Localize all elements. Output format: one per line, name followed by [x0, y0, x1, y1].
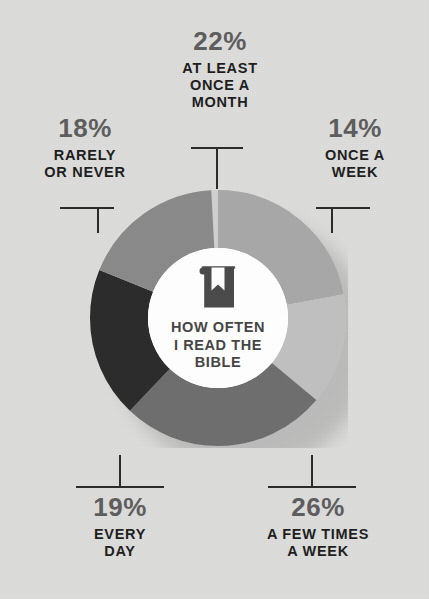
callout-line-1: AT LEAST: [150, 60, 290, 77]
leader-line-once-a-week: [316, 207, 370, 233]
callout-percent: 18%: [18, 115, 152, 141]
leader-stem: [216, 149, 218, 189]
callout-line-2: ONCE A: [150, 77, 290, 94]
center-title: HOW OFTEN I READ THE BIBLE: [171, 319, 265, 372]
leader-line-at-least-once-a-month: [191, 147, 243, 189]
callout-description: AT LEAST ONCE A MONTH: [150, 60, 290, 111]
callout-once-a-week: 14% ONCE A WEEK: [296, 115, 414, 181]
callout-rarely-or-never: 18% RARELY OR NEVER: [18, 115, 152, 181]
callout-line-2: DAY: [58, 543, 182, 560]
leader-line-rarely-or-never: [60, 207, 114, 233]
callout-line-1: ONCE A: [296, 147, 414, 164]
leader-stem: [97, 209, 99, 233]
center-title-line-1: HOW OFTEN: [171, 319, 265, 337]
callout-description: ONCE A WEEK: [296, 147, 414, 181]
callout-percent: 26%: [236, 494, 400, 520]
leader-stem: [119, 455, 121, 488]
callout-description: RARELY OR NEVER: [18, 147, 152, 181]
callout-line-1: EVERY: [58, 526, 182, 543]
callout-percent: 22%: [150, 28, 290, 54]
callout-a-few-times-a-week: 26% A FEW TIMES A WEEK: [236, 494, 400, 560]
callout-percent: 19%: [58, 494, 182, 520]
callout-line-2: OR NEVER: [18, 164, 152, 181]
callout-line-2: WEEK: [296, 164, 414, 181]
infographic-stage: HOW OFTEN I READ THE BIBLE 22% AT LEAST …: [0, 0, 429, 599]
leader-stem: [311, 455, 313, 488]
leader-stem: [331, 209, 333, 233]
book-icon: [198, 264, 238, 310]
leader-bar: [316, 207, 370, 209]
callout-line-1: A FEW TIMES: [236, 526, 400, 543]
callout-every-day: 19% EVERY DAY: [58, 494, 182, 560]
callout-at-least-once-a-month: 22% AT LEAST ONCE A MONTH: [150, 28, 290, 111]
leader-line-every-day: [76, 455, 164, 488]
center-title-line-3: BIBLE: [171, 354, 265, 372]
leader-line-a-few-times-a-week: [268, 455, 356, 488]
callout-line-2: A WEEK: [236, 543, 400, 560]
center-title-line-2: I READ THE: [171, 337, 265, 355]
callout-line-3: MONTH: [150, 94, 290, 111]
callout-description: A FEW TIMES A WEEK: [236, 526, 400, 560]
leader-bar: [60, 207, 114, 209]
callout-line-1: RARELY: [18, 147, 152, 164]
callout-percent: 14%: [296, 115, 414, 141]
donut-chart: HOW OFTEN I READ THE BIBLE: [88, 188, 348, 448]
callout-description: EVERY DAY: [58, 526, 182, 560]
center-label: HOW OFTEN I READ THE BIBLE: [148, 248, 288, 388]
